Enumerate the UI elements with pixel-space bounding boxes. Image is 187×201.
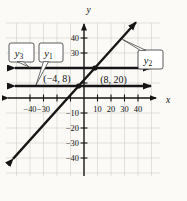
y-tick-label: 30 bbox=[71, 49, 79, 58]
callout-y2: y2 bbox=[123, 40, 164, 70]
point-label: (−4, 8) bbox=[43, 73, 70, 85]
callout-tail-y2 bbox=[123, 40, 147, 51]
x-tick-label: −30 bbox=[37, 105, 50, 114]
y-tick-label: −30 bbox=[66, 139, 79, 148]
y-tick-label: −10 bbox=[66, 109, 79, 118]
data-point bbox=[76, 83, 81, 88]
x-tick-label: 30 bbox=[120, 105, 128, 114]
y-tick-label: −40 bbox=[66, 154, 79, 163]
x-tick-label: −40 bbox=[23, 105, 36, 114]
x-tick-label: 20 bbox=[107, 105, 115, 114]
point-label: (8, 20) bbox=[100, 74, 127, 86]
y-tick-label: −20 bbox=[66, 124, 79, 133]
x-tick-label: 40 bbox=[134, 105, 142, 114]
x-tick-label: 10 bbox=[93, 105, 101, 114]
y-tick-label: 40 bbox=[71, 34, 79, 43]
graph-figure: −40−30102030404030−10−20−30−40xy(−4, 8)(… bbox=[0, 0, 187, 201]
x-axis-label: x bbox=[165, 95, 171, 105]
y-axis-label: y bbox=[86, 5, 92, 15]
coordinate-plane: −40−30102030404030−10−20−30−40xy(−4, 8)(… bbox=[0, 0, 187, 201]
data-point bbox=[92, 65, 97, 70]
